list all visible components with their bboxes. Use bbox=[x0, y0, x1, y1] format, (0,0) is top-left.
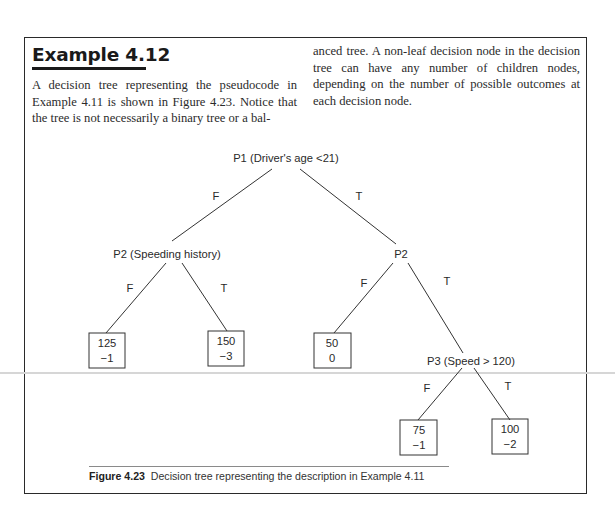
edge-p2left-leaf125 bbox=[106, 263, 166, 333]
edge-p1-p2right bbox=[300, 169, 396, 244]
node-p1: P1 (Driver's age <21) bbox=[233, 152, 339, 164]
leaf-125-top: 125 bbox=[98, 337, 117, 349]
leaf-75-bottom: −1 bbox=[413, 439, 426, 451]
leaf-50-top: 50 bbox=[326, 337, 338, 349]
edge-p2right-p3 bbox=[408, 263, 463, 353]
edge-label-p2right-true: T bbox=[444, 275, 451, 287]
edge-p3-leaf75 bbox=[418, 368, 462, 420]
edge-p2right-leaf50 bbox=[334, 263, 393, 333]
figure-caption: Figure 4.23 Decision tree representing t… bbox=[89, 470, 424, 482]
node-p3: P3 (Speed > 120) bbox=[427, 355, 515, 367]
edge-label-p1-false: F bbox=[213, 190, 220, 202]
leaf-100-bottom: −2 bbox=[504, 438, 517, 450]
edge-label-p2right-false: F bbox=[361, 277, 368, 289]
edge-p2left-leaf150 bbox=[182, 263, 227, 331]
leaf-75-top: 75 bbox=[413, 424, 425, 436]
edge-label-p2left-false: F bbox=[127, 282, 134, 294]
leaf-150-top: 150 bbox=[217, 335, 236, 347]
edge-label-p1-true: T bbox=[356, 190, 363, 202]
figure-caption-text: Decision tree representing the descripti… bbox=[151, 470, 425, 482]
node-p2-right: P2 bbox=[394, 248, 408, 260]
node-p2-left: P2 (Speeding history) bbox=[113, 248, 221, 260]
figure-label: Figure 4.23 bbox=[89, 470, 145, 482]
edge-label-p3-false: F bbox=[424, 382, 431, 394]
leaf-100-top: 100 bbox=[501, 423, 520, 435]
caption-rule bbox=[89, 466, 449, 467]
edge-p1-p2left bbox=[172, 169, 272, 241]
decision-tree-diagram: P1 (Driver's age <21) P2 (Speeding histo… bbox=[0, 0, 615, 507]
edge-label-p2left-true: T bbox=[221, 282, 228, 294]
leaf-150-bottom: −3 bbox=[220, 350, 233, 362]
leaf-50-bottom: 0 bbox=[329, 352, 335, 364]
edge-p3-leaf100 bbox=[474, 368, 510, 420]
leaf-125-bottom: −1 bbox=[101, 352, 114, 364]
edge-label-p3-true: T bbox=[505, 380, 512, 392]
